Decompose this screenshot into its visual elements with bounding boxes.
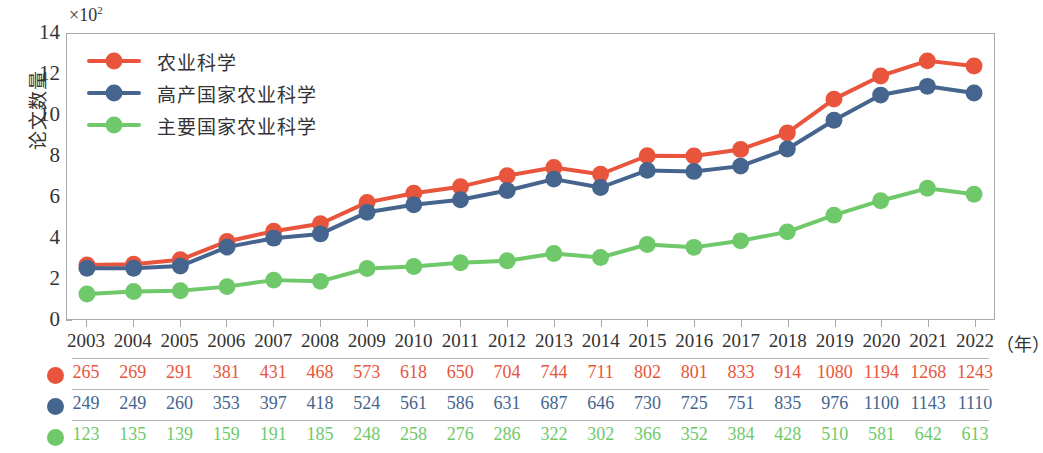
y-tick-label: 0 (18, 307, 60, 332)
table-row: 2652692913814314685736186507047447118028… (0, 358, 1037, 389)
data-point-marker[interactable] (265, 230, 282, 247)
data-point-marker[interactable] (872, 67, 889, 84)
legend-line-swatch (87, 59, 141, 63)
x-tick-mark (554, 320, 555, 327)
x-tick-mark (601, 320, 602, 327)
y-tick-label: 6 (18, 184, 60, 209)
data-point-marker[interactable] (405, 258, 422, 275)
x-tick-mark (226, 320, 227, 327)
data-point-marker[interactable] (639, 147, 656, 164)
table-row: 1231351391591911852482582762863223023663… (0, 420, 1037, 451)
data-point-marker[interactable] (732, 141, 749, 158)
legend-item[interactable]: 高产国家农业科学 (87, 77, 317, 109)
data-point-marker[interactable] (592, 249, 609, 266)
data-point-marker[interactable] (685, 239, 702, 256)
data-point-marker[interactable] (872, 87, 889, 104)
data-point-marker[interactable] (872, 192, 889, 209)
data-point-marker[interactable] (685, 147, 702, 164)
data-point-marker[interactable] (732, 158, 749, 175)
data-point-marker[interactable] (779, 141, 796, 158)
y-tick-label: 2 (18, 266, 60, 291)
table-cell: 1110 (945, 393, 1005, 414)
data-point-marker[interactable] (312, 273, 329, 290)
data-point-marker[interactable] (825, 207, 842, 224)
data-point-marker[interactable] (125, 260, 142, 277)
x-tick-mark (881, 320, 882, 327)
y-tick-label: 14 (18, 20, 60, 45)
legend-marker-icon (106, 117, 123, 134)
data-point-marker[interactable] (732, 232, 749, 249)
data-point-marker[interactable] (966, 85, 983, 102)
data-point-marker[interactable] (219, 239, 236, 256)
legend-item-label: 主要国家农业科学 (157, 112, 317, 139)
y-tick-label: 8 (18, 143, 60, 168)
data-point-marker[interactable] (825, 112, 842, 129)
data-value-table: 2652692913814314685736186507047447118028… (0, 358, 1037, 453)
x-tick-mark (273, 320, 274, 327)
x-tick-mark (414, 320, 415, 327)
data-point-marker[interactable] (78, 260, 95, 277)
data-point-marker[interactable] (592, 179, 609, 196)
y-tick-label: 10 (18, 102, 60, 127)
data-point-marker[interactable] (919, 52, 936, 69)
legend-item-label: 高产国家农业科学 (157, 80, 317, 107)
table-row-divider (72, 420, 989, 421)
data-point-marker[interactable] (405, 196, 422, 213)
data-point-marker[interactable] (919, 78, 936, 95)
data-point-marker[interactable] (452, 191, 469, 208)
data-point-marker[interactable] (545, 171, 562, 188)
y-axis-multiplier-base: ×10 (69, 5, 97, 25)
y-tick-mark (66, 320, 72, 321)
data-point-marker[interactable] (966, 58, 983, 75)
data-point-marker[interactable] (452, 254, 469, 271)
y-tick-label: 4 (18, 225, 60, 250)
y-axis-multiplier: ×102 (69, 4, 103, 26)
x-tick-mark (133, 320, 134, 327)
legend-line-swatch (87, 91, 141, 95)
chart-legend: 农业科学高产国家农业科学主要国家农业科学 (87, 45, 317, 141)
data-point-marker[interactable] (499, 182, 516, 199)
y-tick-label: 12 (18, 61, 60, 86)
x-tick-mark (741, 320, 742, 327)
data-point-marker[interactable] (825, 91, 842, 108)
data-point-marker[interactable] (545, 245, 562, 262)
x-tick-mark (367, 320, 368, 327)
x-tick-mark (647, 320, 648, 327)
data-point-marker[interactable] (919, 180, 936, 197)
table-row: 2492492603533974185245615866316876467307… (0, 389, 1037, 420)
x-axis-labels: （年） 200320042005200620072008200920102011… (0, 330, 1037, 356)
data-point-marker[interactable] (359, 204, 376, 221)
x-tick-mark (180, 320, 181, 327)
series-group (78, 180, 982, 303)
table-cell: 613 (945, 424, 1005, 445)
y-axis-multiplier-exponent: 2 (97, 4, 103, 16)
data-point-marker[interactable] (966, 186, 983, 203)
x-tick-mark (507, 320, 508, 327)
table-cell: 1243 (945, 362, 1005, 383)
data-point-marker[interactable] (499, 167, 516, 184)
data-point-marker[interactable] (172, 258, 189, 275)
x-tick-mark (928, 320, 929, 327)
data-point-marker[interactable] (779, 223, 796, 240)
plot-area: 农业科学高产国家农业科学主要国家农业科学 (66, 33, 995, 320)
x-tick-mark (975, 320, 976, 327)
data-point-marker[interactable] (172, 282, 189, 299)
data-point-marker[interactable] (779, 124, 796, 141)
legend-item[interactable]: 农业科学 (87, 45, 317, 77)
data-point-marker[interactable] (219, 278, 236, 295)
x-tick-mark (460, 320, 461, 327)
x-axis-tick-label: 2022 (945, 330, 1005, 352)
data-point-marker[interactable] (312, 225, 329, 242)
legend-item-label: 农业科学 (157, 48, 237, 75)
data-point-marker[interactable] (125, 283, 142, 300)
data-point-marker[interactable] (359, 260, 376, 277)
data-point-marker[interactable] (265, 272, 282, 289)
data-point-marker[interactable] (499, 252, 516, 269)
data-point-marker[interactable] (685, 163, 702, 180)
data-point-marker[interactable] (639, 236, 656, 253)
data-point-marker[interactable] (78, 286, 95, 303)
legend-marker-icon (106, 53, 123, 70)
data-point-marker[interactable] (639, 162, 656, 179)
legend-item[interactable]: 主要国家农业科学 (87, 109, 317, 141)
